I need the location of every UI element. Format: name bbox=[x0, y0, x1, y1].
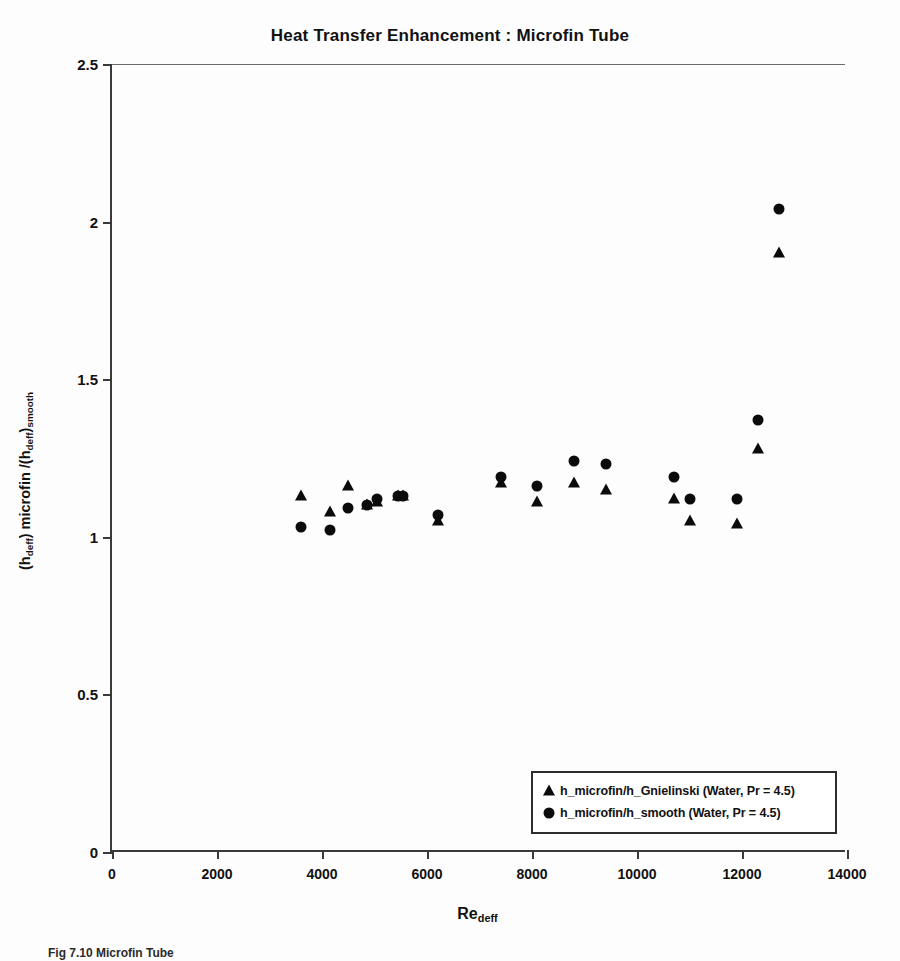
figure-caption: Fig 7.10 Microfin Tube bbox=[48, 946, 174, 961]
y-axis-tick-label: 0.5 bbox=[77, 686, 98, 703]
y-axis-label-text: (hdeff) microfin /(hdeff)smooth bbox=[17, 392, 33, 570]
circle-marker-icon bbox=[600, 459, 611, 470]
x-axis-tick-label: 10000 bbox=[618, 866, 657, 882]
triangle-marker-icon bbox=[531, 496, 543, 507]
x-axis-tick-label: 2000 bbox=[201, 866, 232, 882]
triangle-marker-icon bbox=[684, 515, 696, 526]
x-axis-label: Redeff bbox=[110, 905, 845, 924]
circle-marker-icon bbox=[324, 525, 335, 536]
circle-marker-icon bbox=[495, 471, 506, 482]
x-axis-tick-label: 4000 bbox=[306, 866, 337, 882]
x-axis-tick bbox=[322, 850, 324, 859]
triangle-marker-icon bbox=[324, 505, 336, 516]
circle-marker-icon bbox=[372, 493, 383, 504]
triangle-marker-icon bbox=[600, 483, 612, 494]
triangle-marker-icon bbox=[668, 492, 680, 503]
x-axis-tick bbox=[637, 850, 639, 859]
circle-marker-icon bbox=[343, 503, 354, 514]
x-axis-tick bbox=[742, 850, 744, 859]
circle-marker-icon bbox=[752, 415, 763, 426]
y-axis-tick bbox=[103, 852, 112, 854]
circle-marker-icon bbox=[361, 500, 372, 511]
y-axis-tick-label: 2 bbox=[90, 213, 98, 230]
page-title: Heat Transfer Enhancement : Microfin Tub… bbox=[0, 26, 900, 46]
y-axis-tick-label: 2.5 bbox=[77, 56, 98, 73]
y-axis-tick-label: 1.5 bbox=[77, 371, 98, 388]
triangle-marker-icon bbox=[342, 480, 354, 491]
y-axis-tick-label: 0 bbox=[90, 844, 98, 861]
x-axis-tick bbox=[112, 850, 114, 859]
circle-marker-icon bbox=[773, 203, 784, 214]
y-axis-label: (hdeff) microfin /(hdeff)smooth bbox=[17, 392, 35, 570]
plot-area: 00.511.522.5 020004000600080001000012000… bbox=[110, 64, 845, 852]
y-axis-tick bbox=[103, 222, 112, 224]
triangle-marker-icon bbox=[731, 518, 743, 529]
circle-marker-icon bbox=[731, 493, 742, 504]
legend-circle-marker-icon bbox=[542, 807, 555, 820]
legend-triangle-marker-icon bbox=[542, 785, 555, 798]
legend-item: h_microfin/h_smooth (Water, Pr = 4.5) bbox=[542, 802, 827, 824]
x-axis-tick bbox=[427, 850, 429, 859]
x-axis-tick-label: 12000 bbox=[723, 866, 762, 882]
triangle-marker-icon bbox=[295, 489, 307, 500]
legend: h_microfin/h_Gnielinski (Water, Pr = 4.5… bbox=[531, 771, 837, 834]
legend-item: h_microfin/h_Gnielinski (Water, Pr = 4.5… bbox=[542, 780, 827, 802]
y-axis-tick bbox=[103, 64, 112, 66]
x-axis-tick bbox=[847, 850, 849, 859]
x-axis-tick bbox=[217, 850, 219, 859]
triangle-marker-icon bbox=[773, 247, 785, 258]
x-axis-tick-label: 0 bbox=[108, 866, 116, 882]
circle-marker-icon bbox=[296, 522, 307, 533]
circle-marker-icon bbox=[569, 456, 580, 467]
y-axis-tick bbox=[103, 379, 112, 381]
x-axis-tick bbox=[532, 850, 534, 859]
x-axis-tick-label: 14000 bbox=[828, 866, 867, 882]
y-axis-tick bbox=[103, 694, 112, 696]
x-axis-tick-label: 8000 bbox=[516, 866, 547, 882]
circle-marker-icon bbox=[668, 471, 679, 482]
x-axis-tick-label: 6000 bbox=[411, 866, 442, 882]
triangle-marker-icon bbox=[752, 442, 764, 453]
x-axis-label-sub: deff bbox=[478, 912, 498, 924]
circle-marker-icon bbox=[532, 481, 543, 492]
circle-marker-icon bbox=[398, 490, 409, 501]
y-axis-tick-label: 1 bbox=[90, 528, 98, 545]
legend-item-label: h_microfin/h_smooth (Water, Pr = 4.5) bbox=[560, 806, 781, 820]
y-axis-tick bbox=[103, 537, 112, 539]
figure-scatter-plot: Heat Transfer Enhancement : Microfin Tub… bbox=[0, 0, 900, 961]
plot-inner: 00.511.522.5 020004000600080001000012000… bbox=[112, 64, 845, 850]
circle-marker-icon bbox=[684, 493, 695, 504]
legend-item-label: h_microfin/h_Gnielinski (Water, Pr = 4.5… bbox=[560, 784, 795, 798]
triangle-marker-icon bbox=[568, 477, 580, 488]
circle-marker-icon bbox=[432, 509, 443, 520]
x-axis-label-main: Re bbox=[457, 905, 477, 922]
